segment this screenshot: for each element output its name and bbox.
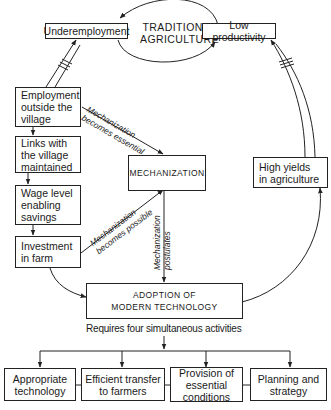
node-low-productivity-label: Low productivity [203, 19, 275, 43]
node-wage-level: Wage level enabling savings [15, 185, 81, 225]
highyields-to-lowproductivity [271, 40, 305, 157]
node-high-yields: High yields in agriculture [253, 157, 328, 188]
activity-appropriate-technology: Appropriate technology [4, 368, 76, 401]
activity-provision-conditions: Provision of essential conditions [170, 367, 243, 402]
node-adoption: ADOPTION OF MODERN TECHNOLOGY [86, 283, 243, 319]
adoption-caption: Requires four simultaneous activities [86, 323, 241, 335]
node-low-productivity: Low productivity [202, 23, 276, 39]
activity-planning-strategy: Planning and strategy [250, 368, 327, 401]
arrow-adoption-to-highyields [242, 188, 320, 302]
edge-label-postulates: Mechanization postulates [152, 215, 172, 270]
node-investment: Investment in farm [15, 236, 81, 268]
node-underemployment: Underemployment [45, 23, 128, 39]
node-links-village: Links with the village maintained [15, 136, 81, 173]
node-mechanization: MECHANIZATION [128, 155, 206, 191]
node-employment-outside: Employment outside the village [15, 87, 81, 127]
node-underemployment-label: Underemployment [44, 25, 130, 37]
activity-efficient-transfer: Efficient transfer to farmers [81, 368, 165, 401]
arrow-investment-to-adoption [50, 268, 86, 297]
